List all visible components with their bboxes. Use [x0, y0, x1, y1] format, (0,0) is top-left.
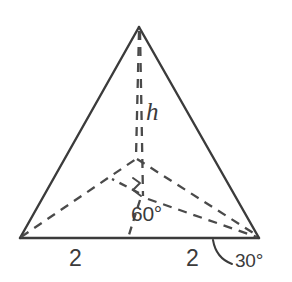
- pyramid-diagram: h 60° 2 2 30°: [0, 0, 292, 282]
- height-label: h: [146, 99, 159, 124]
- edge-apex-to-back-vertex: [136, 31, 139, 157]
- pyramid-drawing: [0, 0, 292, 282]
- leader-arc-30: [213, 240, 232, 264]
- height-line: [140, 31, 143, 196]
- angle-marker-60: [133, 178, 141, 196]
- side-length-right-label: 2: [186, 247, 199, 270]
- base-angle-label: 60°: [131, 203, 162, 224]
- edge-apex-to-front-left: [20, 27, 139, 238]
- side-length-left-label: 2: [69, 247, 82, 270]
- edge-base-left-to-back: [21, 159, 136, 237]
- apex-base-angle-label: 30°: [235, 251, 263, 270]
